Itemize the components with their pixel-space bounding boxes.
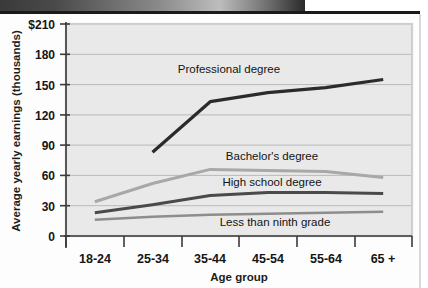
y-tick-label-60: 60 <box>42 169 56 183</box>
x-tick-label-45-54: 45-54 <box>252 252 284 266</box>
bachelors-degree-label: Bachelor's degree <box>226 150 318 162</box>
x-tick-label-18-24: 18-24 <box>79 252 111 266</box>
x-tick-label-55-64: 55-64 <box>310 252 342 266</box>
less-than-ninth-grade-label: Less than ninth grade <box>220 216 331 228</box>
y-tick-label-0: 0 <box>48 230 55 244</box>
professional-degree-label: Professional degree <box>178 63 280 75</box>
x-tick-label-65-plus: 65 + <box>371 252 396 266</box>
y-tick-label-210: $210 <box>28 18 55 32</box>
high-school-degree-label: High school degree <box>222 176 321 188</box>
line-chart-svg: Professional degree Bachelor's degree Hi… <box>0 0 428 288</box>
x-axis-ticks <box>66 236 412 247</box>
y-tick-label-30: 30 <box>42 200 56 214</box>
x-axis-title: Age group <box>210 271 268 283</box>
y-axis-title: Average yearly earnings (thousands) <box>10 30 22 232</box>
chart-figure: Professional degree Bachelor's degree Hi… <box>0 0 428 288</box>
y-tick-label-120: 120 <box>35 109 55 123</box>
x-tick-label-35-44: 35-44 <box>194 252 226 266</box>
plot-area-background <box>66 24 412 236</box>
y-tick-label-180: 180 <box>35 48 55 62</box>
x-tick-label-25-34: 25-34 <box>137 252 169 266</box>
y-tick-label-150: 150 <box>35 79 55 93</box>
y-tick-label-90: 90 <box>42 139 56 153</box>
